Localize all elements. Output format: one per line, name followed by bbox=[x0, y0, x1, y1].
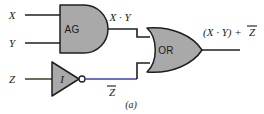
or-gate-label: OR bbox=[158, 45, 174, 56]
input-label-z: Z bbox=[9, 73, 16, 85]
and-gate-label: AG bbox=[64, 24, 79, 35]
figure-caption: (a) bbox=[125, 99, 137, 111]
or-gate-body bbox=[147, 28, 202, 73]
circuit-diagram-canvas: AG I OR X Y Z X · Y Z (X · Y) + Z bbox=[0, 0, 264, 114]
logic-circuit-figure: AG I OR X Y Z X · Y Z (X · Y) + Z bbox=[0, 0, 264, 114]
output-expression-prefix: (X · Y) + bbox=[203, 26, 242, 39]
inverter-bubble-icon bbox=[79, 76, 85, 82]
wire-and-output-to-or-gate bbox=[108, 29, 150, 37]
output-expression: (X · Y) + Z bbox=[203, 26, 257, 39]
signal-label-inverted-z-text: Z bbox=[109, 86, 116, 98]
signal-label-inverted-z: Z bbox=[107, 86, 116, 98]
inverter-gate-body bbox=[52, 62, 79, 96]
input-label-x: X bbox=[8, 9, 17, 21]
input-label-y: Y bbox=[9, 37, 17, 49]
output-expression-overbar-term: Z bbox=[249, 26, 256, 38]
signal-label-and-output: X · Y bbox=[108, 11, 132, 23]
